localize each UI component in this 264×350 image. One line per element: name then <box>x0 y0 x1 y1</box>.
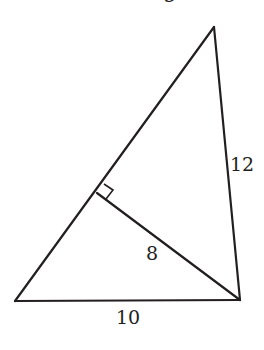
left-side <box>15 27 214 301</box>
triangle-diagram: g 12 8 10 <box>0 0 264 350</box>
right-angle-marker <box>104 184 113 199</box>
base-side <box>15 300 240 301</box>
label-altitude: 8 <box>146 242 158 264</box>
label-right-side: 12 <box>230 153 254 175</box>
altitude-line <box>97 193 240 300</box>
label-base: 10 <box>116 306 140 328</box>
cut-off-heading-text: g <box>163 0 177 2</box>
